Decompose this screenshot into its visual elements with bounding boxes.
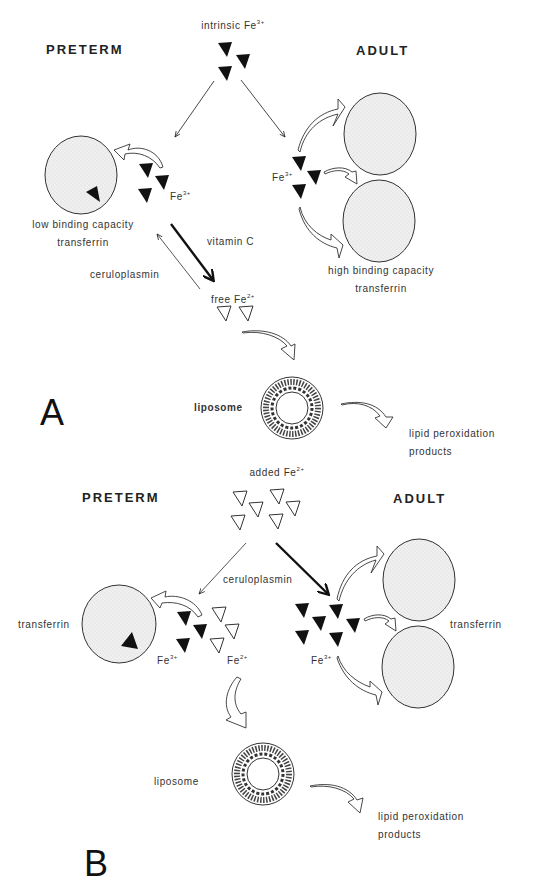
curved-arrow-preterm-binding	[114, 144, 163, 168]
preterm-transferrin-circle	[45, 136, 117, 214]
adult-heading-a: ADULT	[356, 43, 409, 58]
liposome-label-a: liposome	[194, 402, 243, 413]
curved-arrow-to-liposome-b	[226, 677, 246, 728]
adult-heading-b: ADULT	[393, 491, 446, 506]
products-line2-a: products	[409, 446, 452, 457]
curved-arrow-adult-middle-b	[364, 615, 396, 631]
adult-fe3-label-a: Fe3+	[272, 172, 293, 183]
preterm-transferrin-line2: transferrin	[57, 237, 109, 248]
curved-arrow-adult-bottom	[299, 207, 343, 258]
free-fe2-label: free Fe2+	[211, 294, 255, 305]
adult-transferrin-circle-top-b	[383, 539, 455, 621]
adult-thick-arrow-b	[276, 543, 328, 594]
ceruloplasmin-label-a: ceruloplasmin	[90, 269, 160, 280]
preterm-transferrin-label-b: transferrin	[18, 619, 70, 630]
ceruloplasmin-label-b: ceruloplasmin	[223, 574, 293, 585]
curved-arrow-adult-middle	[324, 168, 357, 184]
adult-transferrin-circle-bottom	[343, 180, 415, 262]
liposome-b	[232, 743, 294, 805]
preterm-transferrin-circle-b	[82, 585, 156, 663]
preterm-fe3-label-b: Fe3+	[157, 655, 178, 666]
vitamin-c-label: vitamin C	[207, 236, 254, 247]
products-line1-a: lipid peroxidation	[409, 428, 495, 439]
products-line1-b: lipid peroxidation	[378, 811, 464, 822]
ceruloplasmin-arrow-a	[157, 234, 200, 289]
intrinsic-fe3-cluster	[218, 42, 250, 81]
arrow-to-adult	[241, 80, 285, 137]
adult-transferrin-line2: transferrin	[355, 283, 407, 294]
preterm-transferrin-line1: low binding capacity	[32, 219, 134, 230]
curved-arrow-to-products-b	[310, 785, 363, 813]
added-fe2-label: added Fe2+	[249, 467, 304, 478]
products-line2-b: products	[378, 829, 421, 840]
adult-transferrin-label-b: transferrin	[450, 619, 502, 630]
panel-b-label: B	[84, 843, 108, 885]
curved-arrow-to-products-a	[341, 402, 393, 428]
intrinsic-fe3-label: intrinsic Fe3+	[201, 20, 265, 31]
diagram-canvas	[0, 0, 544, 888]
adult-transferrin-circle-top	[344, 93, 416, 175]
preterm-heading-b: PRETERM	[82, 490, 160, 505]
curved-arrow-adult-top	[298, 99, 345, 152]
liposome-label-b: liposome	[154, 776, 199, 787]
panel-a-label: A	[40, 392, 64, 434]
liposome-a	[261, 377, 323, 439]
adult-transferrin-line1: high binding capacity	[328, 265, 434, 276]
adult-fe3-label-b: Fe3+	[311, 655, 332, 666]
added-fe2-cluster	[231, 489, 300, 530]
curved-arrow-preterm-binding-b	[151, 591, 202, 617]
adult-transferrin-circle-bottom-b	[382, 626, 454, 708]
panel-b	[82, 489, 455, 813]
preterm-fe2-label-b: Fe2+	[227, 655, 248, 666]
preterm-heading-a: PRETERM	[46, 42, 124, 57]
ceruloplasmin-arrow-b	[199, 543, 246, 594]
curved-arrow-adult-top-b	[337, 546, 384, 601]
preterm-fe3-label-a: Fe3+	[170, 191, 191, 202]
curved-arrow-to-liposome-a	[242, 331, 295, 360]
arrow-to-preterm	[175, 81, 214, 137]
curved-arrow-adult-bottom-b	[337, 656, 382, 705]
vitamin-c-arrow	[171, 224, 213, 280]
